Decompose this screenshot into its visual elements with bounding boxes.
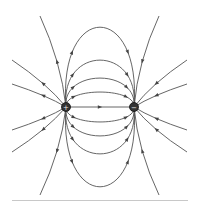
field-line-outer bbox=[134, 84, 187, 107]
field-line-loop bbox=[65, 107, 134, 187]
field-line-loop bbox=[66, 107, 134, 122]
field-line-outer bbox=[12, 60, 66, 107]
field-arrow bbox=[123, 116, 128, 120]
field-arrow bbox=[41, 116, 46, 119]
field-arrow bbox=[71, 115, 76, 118]
field-line-loop bbox=[66, 107, 134, 136]
negative-charge-symbol: − bbox=[131, 104, 137, 112]
field-arrow bbox=[141, 149, 144, 154]
field-arrow bbox=[154, 93, 159, 96]
field-line-outer bbox=[134, 60, 187, 107]
field-line-loop bbox=[65, 27, 134, 107]
field-arrow bbox=[70, 136, 74, 141]
field-arrow bbox=[123, 94, 128, 98]
field-line-loop bbox=[66, 78, 134, 107]
field-arrow bbox=[126, 160, 129, 165]
field-line-outer bbox=[12, 107, 66, 152]
field-line-outer bbox=[12, 84, 66, 107]
field-arrow bbox=[141, 59, 144, 64]
bottom-divider bbox=[12, 200, 188, 201]
positive-charge-symbol: + bbox=[63, 104, 69, 112]
field-line-loop bbox=[66, 60, 135, 107]
field-line-outer bbox=[12, 107, 66, 130]
field-arrow bbox=[125, 137, 129, 142]
field-arrow bbox=[125, 72, 129, 77]
field-arrow bbox=[70, 73, 74, 78]
field-arrow bbox=[56, 59, 59, 64]
field-arrow bbox=[126, 50, 129, 55]
field-arrow bbox=[56, 148, 59, 153]
field-arrow bbox=[70, 159, 73, 164]
field-line-outer bbox=[134, 107, 187, 152]
dipole-field-diagram: +− bbox=[0, 0, 199, 212]
field-arrow bbox=[41, 95, 46, 98]
field-arrow bbox=[70, 50, 73, 55]
field-line-loop bbox=[66, 107, 135, 154]
field-arrow bbox=[71, 96, 76, 99]
field-line-loop bbox=[66, 92, 134, 107]
field-arrow bbox=[98, 105, 102, 109]
field-arrow bbox=[154, 118, 159, 121]
field-line-outer bbox=[134, 107, 187, 130]
